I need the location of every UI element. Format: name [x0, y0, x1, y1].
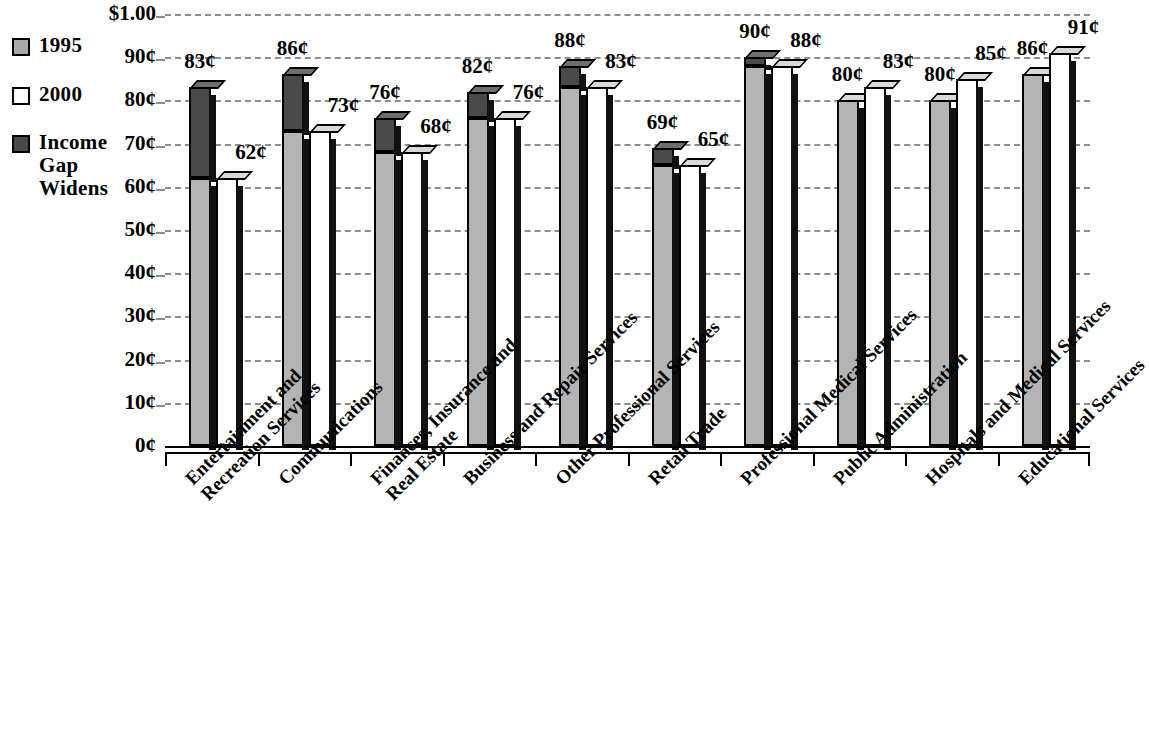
bar-2000[interactable] [956, 79, 978, 446]
bar-value-label-2000: 91¢ [1068, 15, 1100, 40]
segment-top-face [282, 67, 319, 76]
bar-group: 90¢88¢ [744, 14, 804, 446]
y-axis-tick [156, 59, 165, 61]
bar-value-label-1995: 82¢ [462, 54, 494, 79]
segment-side-shadow [487, 100, 494, 122]
y-axis-tick [156, 146, 165, 148]
bar-top-face [586, 80, 623, 89]
segment-top-face [652, 141, 689, 150]
bar-value-label-1995: 83¢ [184, 49, 216, 74]
bar-side-shadow [672, 173, 679, 450]
bar-2000[interactable] [1049, 53, 1071, 446]
x-axis-category-labels: Entertainment and Recreation ServicesCom… [0, 466, 1110, 726]
income-gap-segment[interactable] [189, 87, 211, 178]
x-axis-tick [720, 452, 722, 466]
bar-value-label-1995: 80¢ [832, 62, 864, 87]
bar-1995[interactable] [652, 165, 674, 446]
x-axis-tick [813, 452, 815, 466]
segment-top-face [744, 50, 781, 59]
segment-top-face [467, 85, 504, 94]
y-axis-tick [156, 275, 165, 277]
bar-top-face [401, 145, 438, 154]
bar-top-face [1049, 46, 1086, 55]
bar-side-shadow [329, 139, 336, 450]
y-axis-tick-label: 10¢ [125, 390, 157, 415]
x-axis-tick [1088, 452, 1090, 466]
y-axis-tick-label: 70¢ [125, 131, 157, 156]
bar-value-label-1995: 69¢ [647, 110, 679, 135]
bar-group: 83¢62¢ [189, 14, 249, 446]
bar-top-face [679, 158, 716, 167]
bar-value-label-2000: 83¢ [883, 49, 915, 74]
x-axis-tick [905, 452, 907, 466]
bar-side-shadow [236, 186, 243, 450]
segment-side-shadow [672, 156, 679, 169]
y-axis-tick-label: 30¢ [125, 303, 157, 328]
bar-top-face [771, 59, 808, 68]
bar-side-shadow [976, 87, 983, 450]
x-axis-tick [998, 452, 1000, 466]
bar-2000[interactable] [401, 152, 423, 446]
income-gap-segment[interactable] [467, 92, 489, 118]
y-axis-tick [156, 318, 165, 320]
bar-2000[interactable] [771, 66, 793, 446]
bar-side-shadow [791, 74, 798, 450]
segment-top-face [559, 59, 596, 68]
bar-2000[interactable] [216, 178, 238, 446]
bar-side-shadow [579, 95, 586, 450]
bar-side-shadow [1042, 82, 1049, 450]
bar-side-shadow [421, 160, 428, 450]
segment-side-shadow [302, 82, 309, 134]
income-gap-segment[interactable] [652, 148, 674, 165]
bar-value-label-2000: 83¢ [605, 49, 637, 74]
bar-top-face [956, 72, 993, 81]
bar-value-label-1995: 86¢ [277, 36, 309, 61]
y-axis-tick [156, 102, 165, 104]
y-axis-tick [156, 362, 165, 364]
y-axis-tick [156, 189, 165, 191]
bar-value-label-2000: 68¢ [420, 114, 452, 139]
bar-side-shadow [949, 108, 956, 450]
bar-side-shadow [606, 95, 613, 450]
y-axis-tick-label: 50¢ [125, 217, 157, 242]
segment-top-face [189, 80, 226, 89]
income-gap-segment[interactable] [374, 118, 396, 153]
bar-side-shadow [857, 108, 864, 450]
bar-top-face [864, 80, 901, 89]
bar-group: 76¢68¢ [374, 14, 434, 446]
bar-top-face [494, 111, 531, 120]
y-axis-tick-label: $1.00 [109, 1, 156, 26]
y-axis-tick [156, 16, 165, 18]
bar-value-label-1995: 90¢ [739, 19, 771, 44]
bar-value-label-1995: 88¢ [554, 28, 586, 53]
bar-top-face [216, 171, 253, 180]
bar-value-label-2000: 76¢ [513, 80, 545, 105]
y-axis-tick-label: 80¢ [125, 87, 157, 112]
x-axis-tick [350, 452, 352, 466]
bar-2000[interactable] [586, 87, 608, 446]
bar-1995[interactable] [744, 66, 766, 446]
bar-side-shadow [514, 126, 521, 450]
y-axis-tick-label: 40¢ [125, 260, 157, 285]
bar-top-face [309, 124, 346, 133]
bar-2000[interactable] [864, 87, 886, 446]
y-axis-tick [156, 405, 165, 407]
bar-side-shadow [394, 160, 401, 450]
segment-side-shadow [394, 126, 401, 157]
bar-value-label-1995: 80¢ [924, 62, 956, 87]
income-gap-segment[interactable] [559, 66, 581, 88]
bar-value-label-2000: 65¢ [698, 127, 730, 152]
bar-value-label-1995: 76¢ [369, 80, 401, 105]
x-axis-tick [165, 452, 167, 466]
bar-value-label-2000: 62¢ [235, 140, 267, 165]
income-gap-segment[interactable] [282, 74, 304, 130]
bar-value-label-2000: 85¢ [975, 41, 1007, 66]
bar-2000[interactable] [679, 165, 701, 446]
bar-side-shadow [699, 173, 706, 450]
bar-1995[interactable] [189, 178, 211, 446]
income-gap-segment[interactable] [744, 57, 766, 66]
y-axis-tick-label: 60¢ [125, 174, 157, 199]
bar-side-shadow [884, 95, 891, 450]
bar-value-label-1995: 86¢ [1017, 36, 1049, 61]
